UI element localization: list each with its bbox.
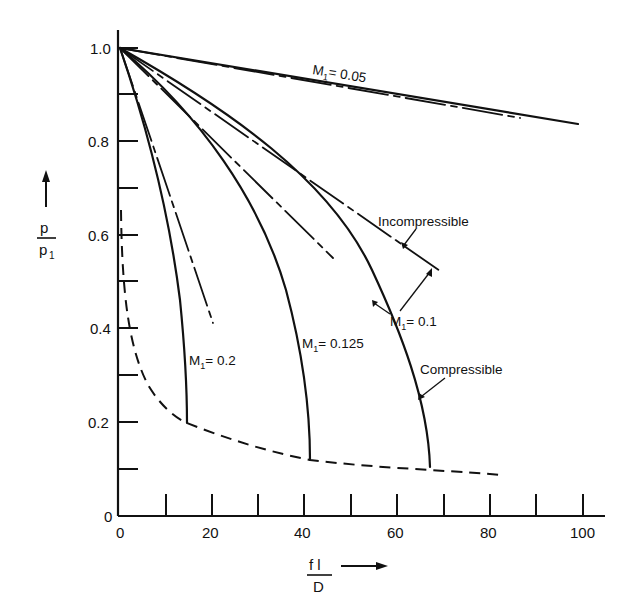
y-tick-0.8: 0.8 — [88, 133, 109, 150]
svg-text:M1= 0.125: M1= 0.125 — [302, 336, 364, 354]
x-ticks — [166, 494, 583, 516]
svg-text:Compressible: Compressible — [420, 362, 503, 377]
x-axis-label: f l D — [307, 556, 388, 595]
svg-text:M1= 0.2: M1= 0.2 — [189, 353, 236, 371]
y-tick-0.6: 0.6 — [88, 227, 109, 244]
y-tick-1.0: 1.0 — [90, 40, 111, 57]
y-tick-labels: 1.0 0.8 0.6 0.4 0.2 0 — [88, 40, 112, 525]
right-arrow-head-icon — [376, 562, 388, 570]
svg-text:D: D — [313, 578, 324, 595]
annotation-compressible: Compressible — [418, 362, 503, 400]
annotation-m01: M1= 0.1 — [372, 268, 437, 332]
x-tick-0: 0 — [116, 524, 124, 541]
y-tick-0: 0 — [104, 508, 112, 525]
y-axis-label: p p 1 — [37, 170, 56, 261]
x-tick-80: 80 — [480, 524, 497, 541]
svg-text:p: p — [40, 219, 48, 236]
annotation-m0125: M1= 0.125 — [302, 336, 364, 354]
x-tick-100: 100 — [570, 524, 595, 541]
x-tick-60: 60 — [387, 524, 404, 541]
y-ticks — [118, 48, 138, 469]
series-m0125-compressible — [120, 48, 310, 460]
x-tick-40: 40 — [294, 524, 311, 541]
y-tick-0.2: 0.2 — [88, 414, 109, 431]
annotation-m02: M1= 0.2 — [189, 353, 236, 371]
svg-text:p: p — [39, 241, 47, 258]
chart: 1.0 0.8 0.6 0.4 0.2 0 0 20 40 60 80 100 … — [0, 0, 635, 607]
annotation-incompressible: Incompressible — [378, 214, 469, 249]
x-tick-20: 20 — [202, 524, 219, 541]
svg-text:1: 1 — [49, 250, 55, 261]
axes — [118, 30, 605, 516]
series-m01-incompressible — [120, 48, 440, 271]
svg-text:f l: f l — [309, 556, 321, 573]
y-tick-0.4: 0.4 — [90, 320, 111, 337]
x-tick-labels: 0 20 40 60 80 100 — [116, 524, 595, 541]
up-arrow-head-icon — [42, 170, 50, 182]
svg-text:Incompressible: Incompressible — [378, 214, 469, 229]
